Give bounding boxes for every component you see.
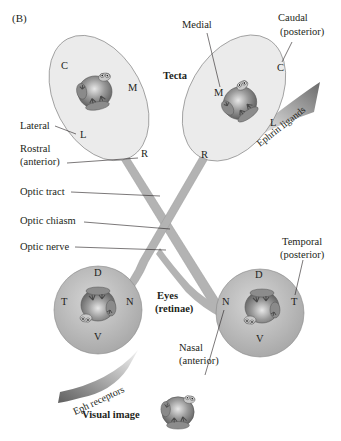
optic-chiasm-label: Optic chiasm (20, 215, 76, 226)
tecta-title: Tecta (163, 70, 188, 81)
tectum-left-m: M (128, 82, 138, 93)
optic-nerve-label: Optic nerve (20, 241, 70, 252)
rostral-label: Rostral (20, 143, 50, 154)
optic-tract-label: Optic tract (20, 186, 65, 197)
nasal-label: Nasal (179, 342, 203, 353)
temporal-label: Temporal (282, 236, 322, 247)
eye-left-t: T (61, 296, 68, 307)
rostral-sub-label: (anterior) (20, 156, 60, 168)
eye-left-d: D (94, 267, 102, 278)
eye-right-d: D (255, 269, 263, 280)
panel-label: (B) (12, 12, 27, 25)
eye-right: D N T V (216, 269, 304, 357)
eye-right-t: T (291, 296, 298, 307)
retinotectal-diagram: (B) C M L R C M L R Tecta D T N V D N T … (0, 0, 341, 441)
caudal-sub-label: (posterior) (280, 26, 325, 38)
eye-right-v: V (256, 333, 264, 344)
caudal-label: Caudal (278, 12, 308, 23)
eye-left: D T N V (54, 266, 142, 354)
visual-image-frog (161, 396, 195, 429)
tectum-left-c: C (61, 60, 68, 71)
tectum-right-c: C (277, 62, 284, 73)
eye-right-n: N (222, 296, 230, 307)
eyes-label: Eyes (157, 290, 178, 301)
lateral-label: Lateral (20, 120, 50, 131)
eye-left-v: V (94, 331, 102, 342)
temporal-sub-label: (posterior) (280, 249, 325, 261)
eye-left-n: N (126, 296, 134, 307)
tectum-left-r: R (141, 148, 148, 159)
nasal-sub-label: (anterior) (179, 355, 219, 367)
tectum-right-r: R (201, 149, 208, 160)
eyes-sub-label: (retinae) (155, 303, 194, 315)
tectum-right: C M L R (161, 17, 307, 180)
medial-label: Medial (182, 19, 212, 30)
tectum-left-l: L (80, 129, 86, 140)
tectum-right-m: M (214, 87, 224, 98)
visual-image-label: Visual image (82, 409, 140, 420)
